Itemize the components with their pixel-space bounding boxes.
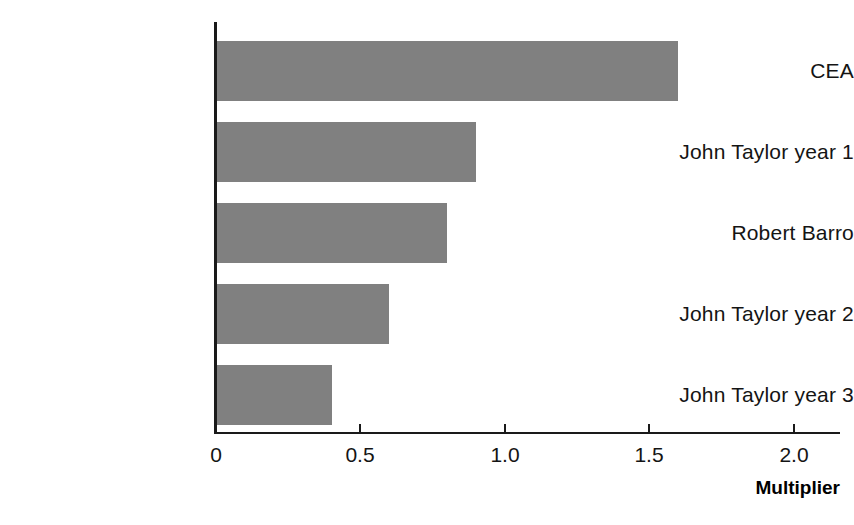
y-axis-line: [214, 22, 217, 434]
bar-john-taylor-year-2: [216, 284, 389, 344]
x-axis-title: Multiplier: [756, 478, 840, 497]
bar-robert-barro: [216, 203, 447, 263]
x-tick-label-4: 2.0: [754, 444, 834, 465]
bar-chart-figure: CEA John Taylor year 1 Robert Barro John…: [0, 0, 854, 525]
plot-area: CEA John Taylor year 1 Robert Barro John…: [0, 0, 854, 525]
category-label-0: CEA: [654, 60, 854, 81]
x-axis-line: [214, 432, 840, 434]
category-label-2: Robert Barro: [654, 222, 854, 243]
x-tick-2: [504, 424, 506, 434]
bar-john-taylor-year-3: [216, 365, 332, 425]
category-label-1: John Taylor year 1: [654, 141, 854, 162]
bar-john-taylor-year-1: [216, 122, 476, 182]
x-tick-0: [215, 424, 217, 434]
category-label-4: John Taylor year 3: [654, 384, 854, 405]
x-tick-4: [793, 424, 795, 434]
x-tick-label-2: 1.0: [465, 444, 545, 465]
bar-cea: [216, 41, 678, 101]
x-tick-label-0: 0: [176, 444, 256, 465]
category-label-3: John Taylor year 2: [654, 303, 854, 324]
x-tick-label-3: 1.5: [609, 444, 689, 465]
x-tick-1: [359, 424, 361, 434]
x-tick-label-1: 0.5: [320, 444, 400, 465]
x-tick-3: [648, 424, 650, 434]
